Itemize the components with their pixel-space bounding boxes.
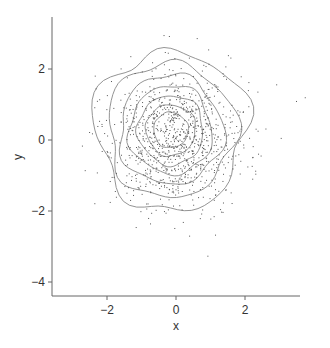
y-tick-label: 0 xyxy=(38,133,45,147)
scatter-density-chart: −4−202 −202 x y xyxy=(0,0,330,348)
y-tick-label: 2 xyxy=(38,62,45,76)
x-tick-label: 2 xyxy=(242,303,249,317)
y-axis-title: y xyxy=(11,154,25,160)
density-contours xyxy=(92,48,254,211)
x-tick-label: −2 xyxy=(100,303,114,317)
y-axis: −4−202 xyxy=(31,17,52,296)
contour-line xyxy=(109,59,242,197)
x-tick-label: 0 xyxy=(173,303,180,317)
y-tick-label: −2 xyxy=(31,204,45,218)
x-axis: −202 xyxy=(52,296,300,317)
y-tick-label: −4 xyxy=(31,275,45,289)
contour-line xyxy=(119,73,226,184)
x-axis-title: x xyxy=(173,319,179,333)
contour-line xyxy=(92,48,254,211)
